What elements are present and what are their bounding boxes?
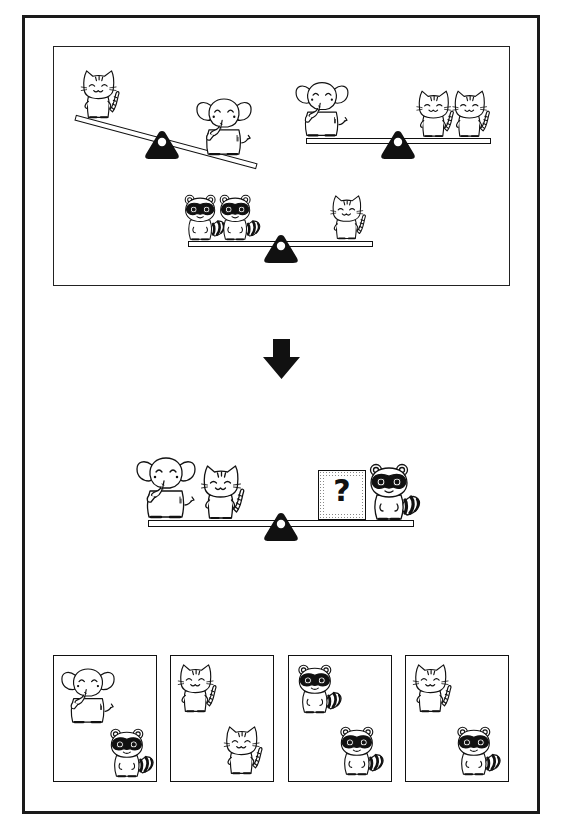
elephant-icon <box>135 455 197 521</box>
answer-option-2[interactable] <box>170 655 274 782</box>
raccoon-icon <box>369 463 421 521</box>
cat-icon <box>80 70 120 120</box>
raccoon-icon <box>109 728 155 778</box>
elephant-icon <box>61 666 115 726</box>
cat-icon <box>330 195 366 241</box>
down-arrow-icon <box>263 339 300 379</box>
raccoon-icon <box>339 726 385 776</box>
raccoon-icon <box>219 194 261 241</box>
cat-icon <box>416 90 454 139</box>
raccoon-icon <box>456 726 502 776</box>
cat-icon <box>452 90 490 139</box>
fulcrum-icon <box>380 130 416 160</box>
fulcrum-icon <box>263 512 299 542</box>
cat-icon <box>177 664 217 714</box>
answer-option-3[interactable] <box>288 655 392 782</box>
cat-icon <box>200 465 245 521</box>
question-mark: ? <box>319 473 365 509</box>
answer-option-1[interactable] <box>53 655 157 782</box>
elephant-icon <box>294 80 350 139</box>
fulcrum-icon <box>144 130 180 160</box>
fulcrum-icon <box>263 234 299 264</box>
elephant-icon <box>196 96 252 158</box>
answer-option-4[interactable] <box>405 655 509 782</box>
unknown-weight-box: ? <box>318 470 366 520</box>
cat-icon <box>223 726 263 776</box>
raccoon-icon <box>297 664 343 714</box>
cat-icon <box>412 664 452 714</box>
